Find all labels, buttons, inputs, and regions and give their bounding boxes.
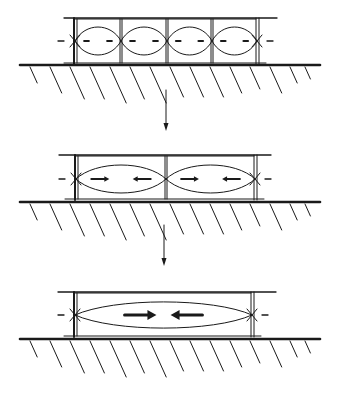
hatch-line xyxy=(70,67,84,99)
hatch-line xyxy=(270,67,282,93)
hatch-line xyxy=(290,341,297,357)
arrow-down-icon xyxy=(162,258,167,266)
hatch-line xyxy=(210,341,224,371)
hatch-line xyxy=(230,204,242,230)
hatch-line xyxy=(250,341,260,363)
wave-lower-curve xyxy=(166,179,255,193)
hatch-line xyxy=(210,204,224,234)
hatch-line xyxy=(90,67,104,99)
hatch-line xyxy=(270,204,282,230)
hatch-line xyxy=(90,204,104,236)
hatch-line xyxy=(190,204,204,234)
hatch-line xyxy=(170,67,184,97)
hatch-line xyxy=(130,67,144,99)
hatch-line xyxy=(305,204,310,216)
arrowhead-icon xyxy=(147,310,156,320)
hatch-line xyxy=(110,341,126,377)
hatch-line xyxy=(170,204,184,234)
ground-hatching xyxy=(30,341,310,377)
hatch-line xyxy=(250,204,260,226)
hatch-line xyxy=(230,341,242,367)
hatch-line xyxy=(50,341,62,367)
arrowhead-icon xyxy=(222,176,227,182)
transition-arrow xyxy=(164,90,169,131)
hatch-line xyxy=(110,204,126,240)
hatch-line xyxy=(50,204,62,230)
hatch-line xyxy=(70,341,84,373)
hatch-line xyxy=(210,67,224,97)
wave-lower-curve xyxy=(167,41,212,55)
hatch-line xyxy=(250,67,260,89)
hatch-line xyxy=(70,204,84,236)
wave-lower-curve xyxy=(76,179,166,193)
wave-lower-curve xyxy=(75,315,252,328)
hatch-line xyxy=(190,341,204,371)
wave-lower-curve xyxy=(75,41,121,55)
panel-2 xyxy=(20,155,320,240)
wave-lower-curve xyxy=(212,41,257,55)
hatch-line xyxy=(190,67,204,97)
wave-upper-curve xyxy=(75,27,121,41)
wave-upper-curve xyxy=(75,302,252,315)
arrowhead-icon xyxy=(104,176,109,182)
wave-upper-curve xyxy=(121,27,167,41)
diagram-stage xyxy=(0,0,339,394)
wave-upper-curve xyxy=(212,27,257,41)
wave-upper-curve xyxy=(166,165,255,179)
ground-hatching xyxy=(30,67,310,103)
hatch-line xyxy=(30,67,37,83)
hatch-line xyxy=(130,341,144,373)
hatch-line xyxy=(305,67,310,79)
hatch-line xyxy=(150,67,166,103)
hatch-line xyxy=(170,341,184,371)
arrow-down-icon xyxy=(164,123,169,131)
hatch-line xyxy=(150,341,166,377)
wave-lower-curve xyxy=(121,41,167,55)
arrowhead-icon xyxy=(171,310,180,320)
hatch-line xyxy=(230,67,242,93)
arrowhead-icon xyxy=(194,176,199,182)
hatch-line xyxy=(290,204,297,220)
standing-wave-diagram xyxy=(0,0,339,394)
panel-3 xyxy=(20,292,320,377)
hatch-line xyxy=(305,341,310,353)
wave-upper-curve xyxy=(167,27,212,41)
arrowhead-icon xyxy=(133,176,138,182)
hatch-line xyxy=(290,67,297,83)
wave-upper-curve xyxy=(76,165,166,179)
hatch-line xyxy=(90,341,104,373)
panel-1 xyxy=(20,18,320,103)
ground-hatching xyxy=(30,204,310,240)
hatch-line xyxy=(30,204,37,220)
hatch-line xyxy=(270,341,282,367)
hatch-line xyxy=(30,341,37,357)
hatch-line xyxy=(50,67,62,93)
hatch-line xyxy=(130,204,144,236)
hatch-line xyxy=(110,67,126,103)
